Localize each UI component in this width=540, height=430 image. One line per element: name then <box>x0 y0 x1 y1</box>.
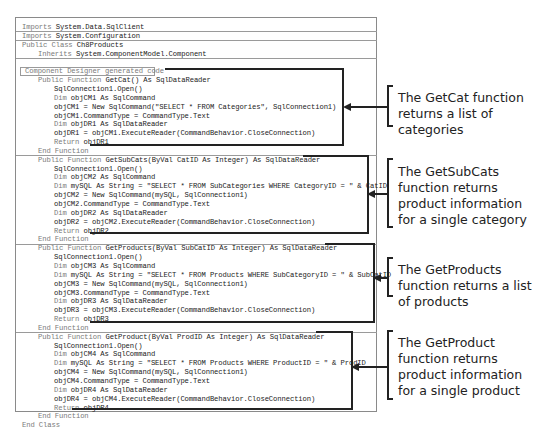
code-text: GetSubCats(ByVal CatID As Integer) As Sq… <box>101 156 320 164</box>
code-line: End Class <box>22 421 60 430</box>
getsubcats-annotation-bracket <box>387 158 393 228</box>
code-line: SqlConnection1.Open() <box>54 342 142 351</box>
code-line: SqlConnection1.Open() <box>54 165 142 174</box>
code-line: Dim objCM2 As SqlCommand <box>54 173 155 182</box>
getcat-annotation-bracket <box>387 85 393 127</box>
keyword: Dim <box>54 94 67 102</box>
keyword: Imports <box>22 32 52 40</box>
code-line: objCM4.CommandType = CommandType.Text <box>54 377 210 386</box>
getproduct-arrow-icon <box>351 363 359 371</box>
code-text: objCM2 = New SqlCommand(mySQL, SqlConnec… <box>54 191 248 199</box>
code-text: objDR3 As SqlDataReader <box>67 297 168 305</box>
code-line: Dim mySQL As String = "SELECT * FROM Sub… <box>54 182 387 191</box>
code-text: objCM1 = New SqlCommand("SELECT * FROM C… <box>54 103 336 111</box>
getcat-arrow-line <box>350 106 388 108</box>
code-line: Dim objDR3 As SqlDataReader <box>54 297 168 306</box>
code-text: objCM2.CommandType = CommandType.Text <box>54 200 210 208</box>
keyword: Dim <box>54 182 67 190</box>
keyword: Return <box>54 227 79 235</box>
code-text: objCM1.CommandType = CommandType.Text <box>54 112 210 120</box>
code-line: objCM2.CommandType = CommandType.Text <box>54 200 210 209</box>
code-line: SqlConnection1.Open() <box>54 85 142 94</box>
code-text: mySQL As String = "SELECT * FROM Product… <box>67 271 391 279</box>
getproduct-annotation-bracket <box>387 330 393 400</box>
keyword: Public Function <box>38 76 101 84</box>
code-line: Dim objCM1 As SqlCommand <box>54 94 155 103</box>
code-text: SqlConnection1.Open() <box>54 165 142 173</box>
code-line: Public Function GetProduct(ByVal ProdID … <box>38 333 325 342</box>
code-line: objCM2 = New SqlCommand(mySQL, SqlConnec… <box>54 191 248 200</box>
keyword: Public Function <box>38 333 101 341</box>
keyword: Dim <box>54 297 67 305</box>
region-label: Component Designer generated code <box>25 67 164 76</box>
code-text: objCM4 = New SqlCommand(mySQL, SqlConnec… <box>54 368 248 376</box>
line-separator <box>16 58 377 59</box>
getproducts-arrow-icon <box>373 274 381 282</box>
code-line: objCM3.CommandType = CommandType.Text <box>54 289 210 298</box>
getproduct-arrow-line <box>358 366 388 368</box>
keyword: End Function <box>38 235 89 243</box>
code-line: objDR1 = objCM1.ExecuteReader(CommandBeh… <box>54 129 315 138</box>
code-line: Public Class Ch8Products <box>22 41 123 50</box>
getsubcats-bracket-top <box>303 155 369 157</box>
code-line: objDR3 = objCM3.ExecuteReader(CommandBeh… <box>54 306 315 315</box>
keyword: Dim <box>54 173 67 181</box>
code-text: SqlConnection1.Open() <box>54 253 142 261</box>
getproducts-bracket-right <box>373 243 375 322</box>
code-text: GetProduct(ByVal ProdID As Integer) As S… <box>101 333 324 341</box>
keyword: Public Function <box>38 244 101 252</box>
code-text: objCM4 As SqlCommand <box>67 350 155 358</box>
keyword: Component Designer generated code <box>25 67 164 75</box>
keyword: Dim <box>54 209 67 217</box>
code-line: objDR2 = objCM2.ExecuteReader(CommandBeh… <box>54 218 315 227</box>
code-line: objDR4 = objCM4.ExecuteReader(CommandBeh… <box>54 395 315 404</box>
code-text: objCM4.CommandType = CommandType.Text <box>54 377 210 385</box>
getcat-annotation: The GetCat function returns a list of ca… <box>398 90 538 138</box>
code-text: SqlConnection1.Open() <box>54 342 142 350</box>
code-line: SqlConnection1.Open() <box>54 253 142 262</box>
getsubcats-arrow-icon <box>367 190 375 198</box>
code-text: GetCat() As SqlDataReader <box>101 76 211 84</box>
code-line: Public Function GetCat() As SqlDataReade… <box>38 76 211 85</box>
code-text: objDR4 = objCM4.ExecuteReader(CommandBeh… <box>54 395 315 403</box>
keyword: Public Class <box>22 41 73 49</box>
keyword: Dim <box>54 271 67 279</box>
keyword: End Function <box>38 412 89 420</box>
keyword: End Function <box>38 324 89 332</box>
code-text: SqlConnection1.Open() <box>54 85 142 93</box>
code-text: objCM3.CommandType = CommandType.Text <box>54 289 210 297</box>
code-line: objCM3 = New SqlCommand(mySQL, SqlConnec… <box>54 280 248 289</box>
code-text: System.ComponentModel.Component <box>72 50 207 58</box>
keyword: Dim <box>54 350 67 358</box>
keyword: Public Function <box>38 156 101 164</box>
getsubcats-bracket-bottom <box>90 232 369 234</box>
code-text: objCM3 As SqlCommand <box>67 262 155 270</box>
code-text: GetProducts(ByVal SubCatID As Integer) A… <box>101 244 337 252</box>
code-line: Dim objCM4 As SqlCommand <box>54 350 155 359</box>
code-text: System.Configuration <box>52 32 140 40</box>
getproducts-bracket-top <box>325 243 375 245</box>
code-text: Ch8Products <box>73 41 124 49</box>
keyword: End Class <box>22 421 60 429</box>
getsubcats-arrow-line <box>374 193 388 195</box>
keyword: Return <box>54 138 79 146</box>
code-text: System.Data.SqlClient <box>52 23 145 31</box>
getproducts-annotation: The GetProducts function returns a list … <box>398 262 538 310</box>
code-line: Dim objCM3 As SqlCommand <box>54 262 155 271</box>
code-text: objDR1 = objCM1.ExecuteReader(CommandBeh… <box>54 129 315 137</box>
code-line: Dim mySQL As String = "SELECT * FROM Pro… <box>54 359 366 368</box>
keyword: Imports <box>22 23 52 31</box>
code-line: objCM1.CommandType = CommandType.Text <box>54 112 210 121</box>
getcat-bracket-bottom <box>90 144 344 146</box>
code-text: objCM1 As SqlCommand <box>67 94 155 102</box>
code-line: Public Function GetProducts(ByVal SubCat… <box>38 244 337 253</box>
code-text: objCM3 = New SqlCommand(mySQL, SqlConnec… <box>54 280 248 288</box>
getcat-arrow-icon <box>343 103 351 111</box>
getproducts-annotation-bracket <box>387 257 393 297</box>
getcat-bracket-top <box>165 68 344 70</box>
keyword: Inherits <box>38 50 72 58</box>
code-line: Dim objDR2 As SqlDataReader <box>54 209 168 218</box>
keyword: Dim <box>54 386 67 394</box>
code-line: Dim objDR1 As SqlDataReader <box>54 120 168 129</box>
getproduct-bracket-bottom <box>72 408 353 410</box>
